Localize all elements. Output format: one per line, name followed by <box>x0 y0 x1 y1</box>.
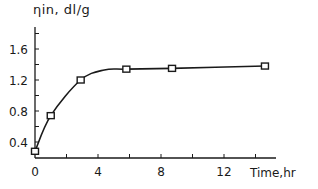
square-marker <box>32 148 39 154</box>
square-marker <box>77 77 84 83</box>
square-marker <box>261 63 268 69</box>
chart-container: 0.40.81.21.6 04812 ηin, dl/g Time,hr <box>0 0 318 189</box>
x-tick-label: 4 <box>94 165 102 179</box>
x-tick-label: 0 <box>31 165 39 179</box>
data-line <box>35 66 265 151</box>
x-tick-label: 8 <box>157 165 165 179</box>
square-marker <box>169 65 176 71</box>
chart-svg: 0.40.81.21.6 04812 <box>0 0 318 189</box>
y-tick-label: 0.4 <box>9 136 28 150</box>
data-markers <box>32 63 269 154</box>
y-tick-label: 1.6 <box>9 43 28 57</box>
square-marker <box>47 113 54 119</box>
y-axis-title: ηin, dl/g <box>33 2 90 17</box>
square-marker <box>123 66 130 72</box>
x-tick-label: 12 <box>216 165 231 179</box>
y-tick-label: 0.8 <box>9 105 28 119</box>
y-tick-label: 1.2 <box>9 74 28 88</box>
x-axis-title: Time,hr <box>250 166 296 180</box>
